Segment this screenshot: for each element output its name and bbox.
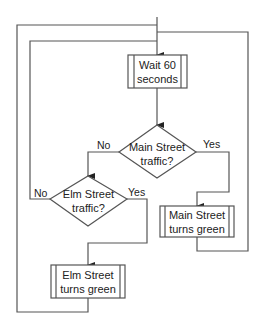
main-no-connector [88, 152, 119, 176]
elm-green-line2: turns green [60, 283, 116, 295]
wait-node: Wait 60 seconds [128, 55, 187, 88]
main-decision-line1: Main Street [129, 141, 185, 153]
main-green-node: Main Street turns green [160, 206, 234, 237]
elm-green-node: Elm Street turns green [51, 265, 125, 298]
wait-node-line2: seconds [137, 73, 178, 85]
wait-node-line1: Wait 60 [139, 59, 176, 71]
elm-yes-label: Yes [128, 186, 145, 198]
main-green-line2: turns green [169, 223, 225, 235]
main-yes-label: Yes [203, 138, 220, 150]
main-no-label: No [97, 139, 111, 151]
main-decision-line2: traffic? [141, 155, 174, 167]
main-yes-connector [196, 152, 229, 206]
elm-decision-line2: traffic? [72, 202, 105, 214]
main-green-line1: Main Street [169, 209, 225, 221]
elm-green-line1: Elm Street [62, 269, 113, 281]
elm-decision-line1: Elm Street [63, 188, 114, 200]
elm-street-decision: Elm Street traffic? [50, 176, 127, 226]
elm-no-label: No [34, 187, 48, 199]
flowchart: Wait 60 seconds Main Street traffic? Elm… [0, 0, 263, 332]
main-street-decision: Main Street traffic? [119, 125, 196, 178]
